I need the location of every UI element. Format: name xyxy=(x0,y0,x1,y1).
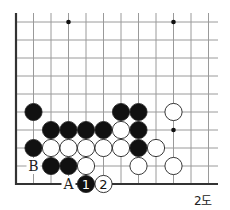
point-label-b: B xyxy=(28,158,38,174)
stone-circle xyxy=(25,103,42,120)
stone-circle xyxy=(165,157,182,174)
stone-circle xyxy=(112,139,129,156)
stone-circle xyxy=(77,121,94,138)
stone-circle xyxy=(42,157,59,174)
white-stone xyxy=(112,121,129,138)
star-point xyxy=(171,128,176,133)
white-stone xyxy=(165,157,182,174)
white-stone xyxy=(165,103,182,120)
black-stone xyxy=(60,121,77,138)
move-number: 1 xyxy=(82,177,90,192)
stone-circle xyxy=(130,139,147,156)
stone-circle xyxy=(165,103,182,120)
stone-circle xyxy=(112,121,129,138)
white-stone xyxy=(147,139,164,156)
star-point xyxy=(171,20,176,25)
stone-circle xyxy=(25,139,42,156)
black-stone xyxy=(130,121,147,138)
go-board-diagram: 12 BA xyxy=(0,0,230,210)
white-stone xyxy=(77,139,94,156)
black-stone xyxy=(77,121,94,138)
stone-circle xyxy=(42,121,59,138)
black-stone xyxy=(42,157,59,174)
stone-circle xyxy=(130,121,147,138)
stone-circle xyxy=(42,139,59,156)
black-stone xyxy=(42,121,59,138)
stone-circle xyxy=(112,103,129,120)
move-number: 2 xyxy=(99,177,107,192)
white-stone: 2 xyxy=(95,175,112,192)
white-stone xyxy=(77,157,94,174)
black-stone xyxy=(130,139,147,156)
stone-circle xyxy=(130,103,147,120)
star-point xyxy=(66,20,71,25)
stone-circle xyxy=(77,139,94,156)
stone-circle xyxy=(95,121,112,138)
black-stone xyxy=(130,103,147,120)
stone-circle xyxy=(130,157,147,174)
black-stone: 1 xyxy=(77,175,94,192)
stone-circle xyxy=(147,139,164,156)
white-stone xyxy=(60,139,77,156)
stone-circle xyxy=(60,157,77,174)
white-stone xyxy=(112,139,129,156)
black-stone xyxy=(60,157,77,174)
white-stone xyxy=(130,157,147,174)
stone-circle xyxy=(95,139,112,156)
black-stone xyxy=(112,103,129,120)
stone-circle xyxy=(60,121,77,138)
white-stone xyxy=(95,139,112,156)
stone-circle xyxy=(77,157,94,174)
white-stone xyxy=(42,139,59,156)
diagram-caption: 2도 xyxy=(194,191,212,208)
black-stone xyxy=(25,139,42,156)
black-stone xyxy=(95,121,112,138)
black-stone xyxy=(25,103,42,120)
point-label-a: A xyxy=(62,176,74,192)
stone-circle xyxy=(60,139,77,156)
